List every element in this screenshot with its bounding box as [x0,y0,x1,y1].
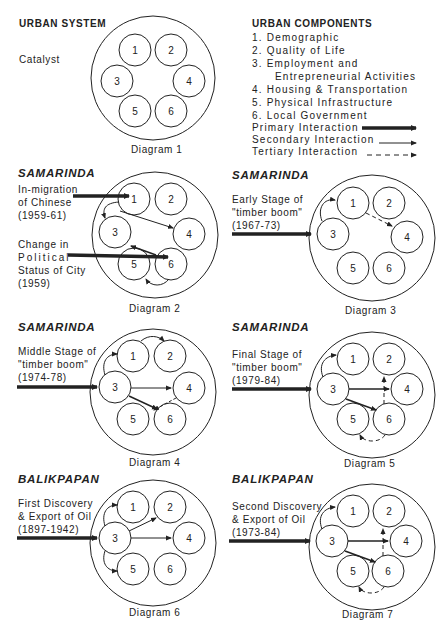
urban-components-title: URBAN COMPONENTS [252,18,372,29]
svg-text:6: 6 [168,259,174,270]
node-6: 6 [154,403,186,435]
arrow-6-to-5 [360,435,385,441]
svg-text:6: 6 [385,566,391,577]
svg-text:4: 4 [186,533,192,544]
node-1: 1 [337,495,369,527]
svg-text:5: 5 [350,414,356,425]
svg-text:5: 5 [130,414,136,425]
svg-text:3: 3 [330,384,336,395]
svg-text:3: 3 [112,382,118,393]
catalyst-text: Change in Political Status of City (1959… [18,238,86,290]
node-4: 4 [391,221,423,253]
svg-text:2: 2 [167,502,173,513]
node-2: 2 [373,495,405,527]
node-3: 3 [101,65,133,97]
node-1: 1 [118,183,150,215]
diagram-caption: Diagram 3 [345,305,397,316]
node-5: 5 [337,252,369,284]
node-1: 1 [117,491,149,523]
city-title: SAMARINDA [18,321,95,333]
node-1: 1 [119,34,151,66]
catalyst-text: Early Stage of "timber boom" (1967-73) [232,193,303,232]
diagram-7: 1 2 3 4 5 6 [309,484,435,610]
svg-text:6: 6 [167,414,173,425]
diagram-caption: Diagram 5 [344,458,396,469]
svg-text:5: 5 [131,259,137,270]
node-3: 3 [99,371,131,403]
diagram-3: 1 2 3 4 5 6 [309,175,435,301]
catalyst-text: First Discovery & Export of Oil (1897-19… [18,497,93,536]
svg-text:5: 5 [350,263,356,274]
svg-text:3: 3 [112,227,118,238]
urban-system-title: URBAN SYSTEM [19,18,106,29]
svg-text:1: 1 [350,354,356,365]
component-item: 4. Housing & Transportation [252,83,416,96]
diagram-1: 1 2 3 4 5 6 [91,16,215,140]
svg-text:1: 1 [130,351,136,362]
legend-tertiary-label: Tertiary Interaction [252,146,374,158]
catalyst-text: Middle Stage of "timber boom" (1974-78) [18,345,97,384]
component-item: 3. Employment and [252,57,416,70]
svg-text:6: 6 [386,263,392,274]
svg-text:5: 5 [130,564,136,575]
svg-text:3: 3 [329,536,335,547]
node-2: 2 [155,183,187,215]
node-2: 2 [373,187,405,219]
legend-primary-label: Primary Interaction [252,122,374,134]
node-2: 2 [154,340,186,372]
node-4: 4 [390,525,422,557]
node-1: 1 [337,343,369,375]
node-3: 3 [317,373,349,405]
node-2: 2 [373,343,405,375]
node-1: 1 [337,187,369,219]
legend-secondary-label: Secondary Interaction [252,134,374,146]
component-item: 1. Demographic [252,31,416,44]
catalyst-text: Second Discovery & Export of Oil (1973-8… [232,500,322,539]
node-3: 3 [99,522,131,554]
node-3: 3 [99,216,131,248]
svg-text:4: 4 [186,76,192,87]
svg-text:2: 2 [386,198,392,209]
city-title: BALIKPAPAN [18,473,100,485]
catalyst-label: Catalyst [19,53,60,66]
svg-text:4: 4 [404,384,410,395]
city-title: SAMARINDA [18,167,95,179]
node-6: 6 [154,553,186,585]
svg-text:4: 4 [403,536,409,547]
svg-text:6: 6 [168,106,174,117]
svg-text:2: 2 [386,506,392,517]
arrow-6-to-5 [359,587,384,593]
diagram-caption: Diagram 2 [129,303,181,314]
node-1: 1 [117,340,149,372]
svg-text:3: 3 [330,229,336,240]
svg-text:3: 3 [114,76,120,87]
city-title: SAMARINDA [232,321,309,333]
node-4: 4 [173,522,205,554]
diagram-4: 1 2 3 4 5 6 [90,329,216,455]
svg-text:1: 1 [350,506,356,517]
node-5: 5 [117,553,149,585]
diagram-6: 1 2 3 4 5 6 [90,480,216,606]
node-6: 6 [373,252,405,284]
interaction-legend: Primary Interaction Secondary Interactio… [252,122,374,158]
svg-text:1: 1 [130,502,136,513]
node-6: 6 [373,403,405,435]
component-item: 6. Local Government [252,109,416,122]
diagram-2: 1 2 3 4 5 6 [92,172,218,298]
svg-text:2: 2 [168,194,174,205]
node-3: 3 [317,218,349,250]
node-5: 5 [117,403,149,435]
svg-text:6: 6 [167,564,173,575]
city-title: BALIKPAPAN [232,473,314,485]
node-6: 6 [155,95,187,127]
node-4: 4 [173,65,205,97]
node-5: 5 [337,403,369,435]
svg-text:5: 5 [350,566,356,577]
node-4: 4 [173,372,205,404]
svg-text:4: 4 [404,232,410,243]
component-item: 2. Quality of Life [252,44,416,57]
node-2: 2 [155,34,187,66]
svg-text:1: 1 [350,198,356,209]
svg-text:5: 5 [132,106,138,117]
svg-text:1: 1 [131,194,137,205]
